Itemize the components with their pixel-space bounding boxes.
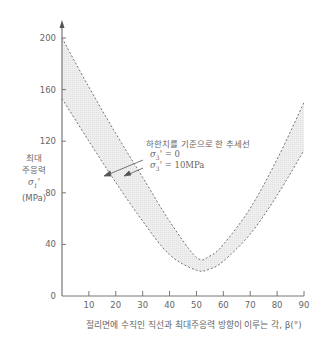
x-tick-label: 90 (299, 300, 310, 310)
x-tick-label: 70 (245, 300, 256, 310)
y-tick-label: 0 (51, 291, 56, 301)
y-title-line-4: (MPa) (14, 192, 54, 204)
x-tick-label: 80 (272, 300, 283, 310)
legend-sigma3-10mpa: σ3' = 10MPa (150, 160, 204, 172)
legend-sigma3-0: σ3' = 0 (150, 149, 180, 161)
y-tick-label: 40 (45, 239, 56, 249)
x-axis-title: 절리면에 수직인 직선과 최대주응력 방향이 이루는 각, β(°) (0, 318, 328, 331)
x-tick-label: 20 (110, 300, 121, 310)
y-title-line-2: 주응력 (14, 164, 54, 176)
x-tick-label: 60 (218, 300, 229, 310)
y-title-line-1: 최대 (14, 152, 54, 164)
y-title-line-3: σ1' (14, 176, 54, 192)
x-tick-label: 10 (83, 300, 94, 310)
band-annotation-title: 하한치를 기준으로 한 추세선 (146, 137, 250, 149)
x-tick-label: 40 (164, 300, 175, 310)
y-tick-label: 120 (40, 136, 56, 146)
stress-band (62, 38, 304, 271)
x-tick-label: 30 (137, 300, 148, 310)
y-axis-title: 최대 주응력 σ1' (MPa) (14, 152, 54, 204)
x-tick-label: 50 (191, 300, 202, 310)
y-tick-label: 200 (40, 33, 56, 43)
y-tick-label: 160 (40, 85, 56, 95)
